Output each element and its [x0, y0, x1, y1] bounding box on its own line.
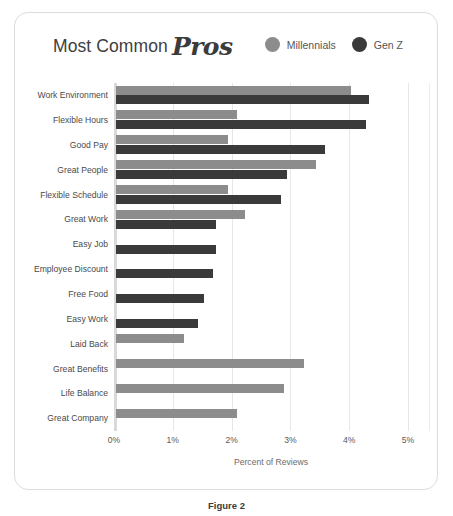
bar-gen-z[interactable]: [116, 145, 325, 154]
bar-gen-z[interactable]: [116, 245, 216, 254]
bar-gen-z[interactable]: [116, 294, 204, 303]
bar-group: [116, 158, 436, 183]
chart-header: Most CommonPros Millennials Gen Z: [15, 13, 437, 75]
category-label: Great People: [15, 166, 108, 175]
bar-group: [116, 133, 436, 158]
x-axis-ticks: 0%1%2%3%4%5%: [15, 435, 439, 455]
bar-millennials[interactable]: [116, 110, 237, 119]
chart-row: Life Balance: [15, 381, 439, 406]
category-label: Easy Job: [15, 240, 108, 249]
x-tick-label: 0%: [108, 435, 120, 445]
bar-group: [116, 282, 436, 307]
category-label: Great Work: [15, 215, 108, 224]
bar-gen-z[interactable]: [116, 269, 213, 278]
chart-row: Great Work: [15, 207, 439, 232]
title-plain-text: Most Common: [53, 36, 168, 56]
x-tick-label: 4%: [343, 435, 355, 445]
chart-row: Great Company: [15, 406, 439, 431]
bar-millennials[interactable]: [116, 334, 184, 343]
category-label: Employee Discount: [15, 265, 108, 274]
bar-millennials[interactable]: [116, 384, 284, 393]
bar-group: [116, 356, 436, 381]
x-tick-label: 5%: [402, 435, 414, 445]
chart-bar-rows: Work EnvironmentFlexible HoursGood PayGr…: [15, 83, 439, 431]
legend-label-genz: Gen Z: [374, 39, 403, 51]
category-label: Flexible Schedule: [15, 191, 108, 200]
bar-group: [116, 207, 436, 232]
bar-millennials[interactable]: [116, 185, 228, 194]
bar-millennials[interactable]: [116, 86, 351, 95]
chart-row: Flexible Schedule: [15, 182, 439, 207]
x-tick-label: 1%: [167, 435, 179, 445]
x-axis-title: Percent of Reviews: [15, 457, 439, 467]
category-label: Laid Back: [15, 340, 108, 349]
bar-millennials[interactable]: [116, 210, 245, 219]
chart-row: Easy Work: [15, 307, 439, 332]
x-tick-label: 2%: [225, 435, 237, 445]
circle-icon: [352, 37, 367, 52]
category-label: Great Benefits: [15, 365, 108, 374]
chart-row: Great Benefits: [15, 356, 439, 381]
category-label: Good Pay: [15, 141, 108, 150]
chart-row: Laid Back: [15, 332, 439, 357]
bar-group: [116, 381, 436, 406]
category-label: Work Environment: [15, 91, 108, 100]
bar-group: [116, 182, 436, 207]
bar-group: [116, 232, 436, 257]
bar-gen-z[interactable]: [116, 220, 216, 229]
chart-row: Great People: [15, 158, 439, 183]
category-label: Great Company: [15, 414, 108, 423]
bar-gen-z[interactable]: [116, 319, 198, 328]
category-label: Easy Work: [15, 315, 108, 324]
category-label: Flexible Hours: [15, 116, 108, 125]
bar-group: [116, 108, 436, 133]
chart-card: Most CommonPros Millennials Gen Z Work E…: [14, 12, 438, 490]
legend-item-millennials[interactable]: Millennials: [265, 37, 336, 52]
bar-millennials[interactable]: [116, 409, 237, 418]
category-label: Life Balance: [15, 389, 108, 398]
bar-millennials[interactable]: [116, 135, 228, 144]
title-script-text: Pros: [172, 32, 233, 61]
legend-label-millennials: Millennials: [287, 39, 336, 51]
chart-row: Easy Job: [15, 232, 439, 257]
legend-item-genz[interactable]: Gen Z: [352, 37, 403, 52]
category-label: Free Food: [15, 290, 108, 299]
page-title: Most CommonPros: [53, 29, 233, 58]
bar-group: [116, 83, 436, 108]
bar-gen-z[interactable]: [116, 195, 281, 204]
bar-gen-z[interactable]: [116, 120, 366, 129]
circle-icon: [265, 37, 280, 52]
chart-row: Flexible Hours: [15, 108, 439, 133]
chart-row: Free Food: [15, 282, 439, 307]
bar-group: [116, 307, 436, 332]
chart-row: Work Environment: [15, 83, 439, 108]
x-tick-label: 3%: [284, 435, 296, 445]
bar-millennials[interactable]: [116, 160, 316, 169]
chart-plot-area: Work EnvironmentFlexible HoursGood PayGr…: [15, 75, 439, 491]
bar-gen-z[interactable]: [116, 170, 287, 179]
figure-root: Most CommonPros Millennials Gen Z Work E…: [0, 0, 453, 516]
bar-millennials[interactable]: [116, 359, 304, 368]
x-axis-title-text: Percent of Reviews: [146, 457, 308, 467]
bar-group: [116, 332, 436, 357]
chart-row: Good Pay: [15, 133, 439, 158]
bar-gen-z[interactable]: [116, 95, 369, 104]
chart-row: Employee Discount: [15, 257, 439, 282]
chart-legend: Millennials Gen Z: [265, 37, 403, 52]
bar-group: [116, 257, 436, 282]
figure-caption: Figure 2: [0, 500, 453, 516]
bar-group: [116, 406, 436, 431]
